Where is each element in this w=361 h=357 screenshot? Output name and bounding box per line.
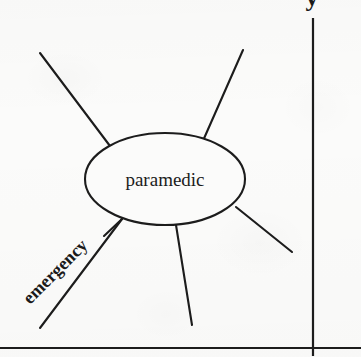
ray-bottom	[176, 225, 192, 325]
emergency-edge-label: emergency	[19, 235, 92, 308]
clipped-descender-glyph: y	[306, 0, 319, 12]
ray-lower-left-stub	[104, 219, 122, 236]
ray-right-lower	[236, 207, 292, 252]
ray-upper-right	[202, 50, 243, 143]
figure-canvas: paramedic emergency y	[0, 0, 361, 357]
central-node-label: paramedic	[125, 169, 204, 190]
diagram-svg: paramedic emergency y	[0, 0, 361, 357]
ray-upper-left	[40, 53, 110, 146]
